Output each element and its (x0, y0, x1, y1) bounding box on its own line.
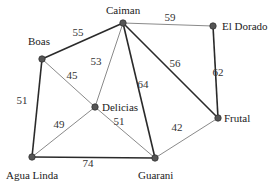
node-label-guarani: Guarani (138, 169, 173, 181)
edge-delicias-guarani (95, 107, 155, 158)
edge-boas-agualinda (32, 59, 42, 157)
edge-weight-frutal-guarani: 42 (172, 121, 183, 133)
edge-weight-eldorado-frutal: 62 (213, 66, 224, 78)
node-guarani (152, 155, 158, 161)
edge-boas-delicias (42, 59, 95, 107)
edge-weight-boas-agualinda: 51 (17, 94, 28, 106)
node-delicias (92, 104, 98, 110)
edge-delicias-agualinda (32, 107, 95, 157)
node-boas (39, 56, 45, 62)
edge-weight-delicias-agualinda: 49 (54, 118, 66, 130)
edge-caiman-eldorado (123, 23, 213, 26)
node-eldorado (210, 23, 216, 29)
edge-weight-caiman-guarani: 64 (138, 78, 150, 90)
edge-weight-caiman-delicias: 53 (91, 55, 103, 67)
edge-agualinda-guarani (32, 157, 155, 158)
edge-weight-caiman-eldorado: 59 (165, 11, 177, 23)
node-agualinda (29, 154, 35, 160)
edge-caiman-guarani (123, 23, 155, 158)
node-caiman (120, 20, 126, 26)
graph-diagram: 555953645662455149517442CaimanEl DoradoB… (0, 0, 272, 184)
edge-weight-agualinda-guarani: 74 (83, 157, 95, 169)
node-frutal (215, 115, 221, 121)
edge-weight-boas-caiman: 55 (73, 26, 85, 38)
node-label-agualinda: Agua Linda (6, 169, 58, 181)
edge-weight-boas-delicias: 45 (67, 69, 79, 81)
node-label-boas: Boas (28, 35, 50, 47)
node-label-caiman: Caiman (106, 4, 141, 16)
node-label-frutal: Frutal (224, 112, 250, 124)
edge-frutal-guarani (155, 118, 218, 158)
node-label-delicias: Delicias (102, 101, 138, 113)
edge-weight-delicias-guarani: 51 (114, 115, 125, 127)
node-label-eldorado: El Dorado (222, 20, 268, 32)
edge-weight-caiman-frutal: 56 (170, 57, 182, 69)
